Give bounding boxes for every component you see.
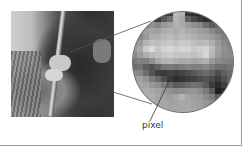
magnifier-circle	[133, 12, 233, 112]
magnified-pixel-grid	[133, 12, 233, 112]
photo-hand-lower	[45, 69, 63, 81]
photo-figure-face	[93, 39, 111, 63]
magnified-pixel	[227, 106, 233, 112]
figure-frame-right-border	[241, 0, 242, 146]
photo-fringe-clothing	[11, 51, 41, 117]
pixel-label: pixel	[142, 120, 163, 130]
source-photo	[11, 11, 114, 117]
figure-frame-bottom-border	[0, 145, 242, 146]
